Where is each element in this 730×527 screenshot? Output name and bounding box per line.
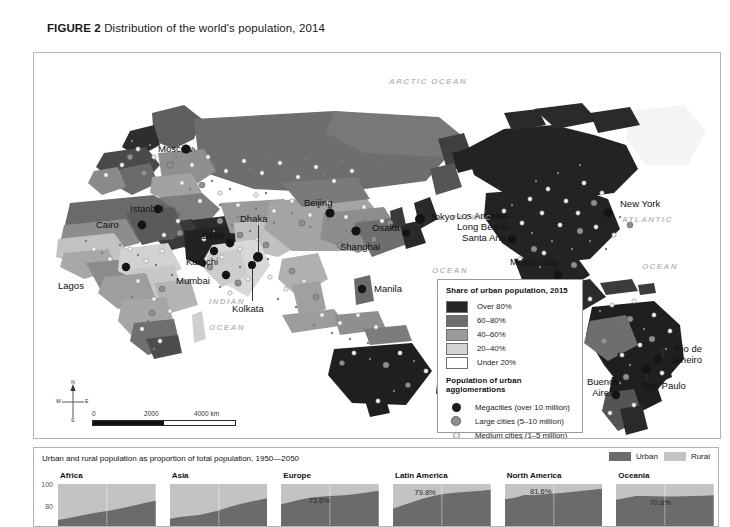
legend-label-medium-cities: Medium cities (1–5 million)	[475, 431, 567, 440]
pct-label-north-america: 81.6%	[530, 487, 551, 496]
page-title: FIGURE 2 Distribution of the world's pop…	[47, 22, 325, 34]
chart-plot-europe: 73.6%	[281, 484, 379, 526]
scale-segment-dark	[93, 421, 164, 425]
compass-south: S	[71, 417, 74, 423]
chart-title-latin-america: Latin America	[395, 471, 448, 480]
chart-plot-latin-america: 79.8%	[393, 484, 491, 526]
legend-share-title: Share of urban population, 2015	[446, 286, 575, 295]
chart-title-asia: Asia	[172, 471, 189, 480]
legend-class-40-60: 40–60%	[446, 328, 575, 341]
y-tick-80: 80	[45, 503, 53, 510]
city-label-delhi: Delhi	[202, 230, 224, 241]
compass-east: E	[85, 398, 88, 404]
leader-line-sao-paulo	[646, 373, 647, 381]
ocean-label-atlantic-2: OCEAN	[642, 262, 678, 271]
region-chart-africa: Africa	[58, 472, 156, 526]
legend-dot-medium-wrap	[446, 432, 466, 439]
legend-swatch-urban	[609, 452, 631, 461]
city-label-karachi: Karachi	[186, 256, 218, 267]
region-chart-asia: Asia	[170, 472, 268, 526]
city-label-istanbul: Istanbul	[130, 203, 163, 214]
city-label-buenos-aires: Buenos Aires	[580, 376, 626, 398]
scale-tick-2000: 2000	[144, 410, 159, 417]
chart-plot-oceania: 70.8%	[616, 484, 714, 526]
chart-y-axis: 100 80	[33, 472, 56, 527]
legend-class-20-40: 20–40%	[446, 342, 575, 355]
scale-segment-light	[164, 421, 235, 425]
city-label-lagos: Lagos	[58, 280, 84, 291]
ocean-label-atlantic: ATLANTIC	[622, 215, 673, 224]
legend-class-medium-cities: Medium cities (1–5 million)	[446, 428, 575, 439]
chart-title-europe: Europe	[283, 471, 311, 480]
compass-north: N	[71, 379, 75, 385]
region-chart-grid: Africa Asia	[58, 472, 714, 526]
legend-class-large-cities: Large cities (5–10 million)	[446, 414, 575, 428]
legend-swatch-rural	[664, 452, 686, 461]
legend-label-large-cities: Large cities (5–10 million)	[475, 417, 564, 426]
city-label-cairo: Cairo	[96, 219, 119, 230]
leader-line-rio	[662, 349, 663, 359]
city-label-los-angeles: Los Angeles- Long Beach- Santa Ana	[442, 210, 526, 243]
legend-dot-large-wrap	[446, 416, 466, 426]
legend-dot-megacities-wrap	[446, 403, 466, 412]
area-svg-latin-america	[393, 484, 491, 526]
chart-title-africa: Africa	[60, 471, 83, 480]
city-label-shanghai: Shanghai	[340, 241, 380, 252]
legend-label-60-80: 60–80%	[477, 316, 506, 325]
city-label-mexico-city: Mexico City	[510, 256, 559, 267]
bottom-chart-title: Urban and rural population as proportion…	[42, 454, 299, 463]
city-label-moscow: Moscow	[158, 143, 193, 154]
map-legend: Share of urban population, 2015 Over 80%…	[437, 279, 583, 433]
legend-class-over-80: Over 80%	[446, 300, 575, 313]
scale-tick-4000: 4000 km	[194, 410, 219, 417]
chart-plot-asia	[170, 484, 268, 526]
region-chart-europe: Europe 73.6%	[281, 472, 379, 526]
pct-label-oceania: 70.8%	[650, 498, 671, 507]
area-svg-europe	[281, 484, 379, 526]
region-chart-north-america: North America 81.6%	[505, 472, 603, 526]
legend-swatch-40-60	[446, 329, 468, 341]
legend-label-over-80: Over 80%	[477, 302, 512, 311]
figure-title: Distribution of the world's population, …	[104, 22, 325, 34]
megacity-dot-icon	[452, 403, 461, 412]
urban-rural-chart-panel: Urban and rural population as proportion…	[33, 447, 719, 527]
legend-item-rural: Rural	[664, 452, 710, 461]
city-label-rio-de-janeiro: Rio de Janeiro	[646, 343, 702, 365]
legend-item-urban: Urban	[609, 452, 658, 461]
city-label-beijing: Beijing	[304, 197, 333, 208]
legend-swatch-20-40	[446, 343, 468, 355]
leader-line-kolkata	[252, 269, 253, 301]
ocean-label-indian-2: OCEAN	[209, 323, 245, 332]
legend-swatch-under-20	[446, 357, 468, 369]
region-chart-oceania: Oceania 70.8%	[616, 472, 714, 526]
city-label-mumbai: Mumbai	[176, 275, 210, 286]
scale-bar-graphic	[92, 420, 236, 426]
city-label-kolkata: Kolkata	[232, 303, 264, 314]
scale-ticks: 0 2000 4000 km	[92, 410, 236, 420]
compass-rose-icon: N S W E	[56, 380, 90, 424]
pct-label-europe: 73.6%	[309, 496, 330, 505]
large-city-dot-icon	[451, 416, 461, 426]
legend-label-under-20: Under 20%	[477, 358, 516, 367]
legend-label-urban: Urban	[636, 452, 658, 461]
city-label-new-york: New York	[620, 198, 660, 209]
city-label-osaka: Osaka	[372, 222, 399, 233]
city-label-sao-paulo: Sao Paulo	[642, 380, 686, 391]
map-scale-bar: 0 2000 4000 km	[92, 410, 236, 426]
legend-class-60-80: 60–80%	[446, 314, 575, 327]
legend-class-under-20: Under 20%	[446, 356, 575, 369]
legend-label-rural: Rural	[691, 452, 710, 461]
legend-swatch-60-80	[446, 315, 468, 327]
city-label-dhaka: Dhaka	[240, 213, 267, 224]
city-label-manila: Manila	[374, 283, 402, 294]
area-svg-africa	[58, 484, 156, 526]
scale-tick-0: 0	[92, 410, 96, 417]
ocean-label-arctic: ARCTIC OCEAN	[389, 77, 467, 86]
medium-city-dot-icon	[453, 432, 460, 439]
y-tick-100: 100	[41, 481, 53, 488]
legend-label-20-40: 20–40%	[477, 344, 506, 353]
legend-class-megacities: Megacities (over 10 million)	[446, 400, 575, 414]
area-svg-north-america	[505, 484, 603, 526]
chart-title-north-america: North America	[507, 471, 562, 480]
chart-title-oceania: Oceania	[618, 471, 649, 480]
